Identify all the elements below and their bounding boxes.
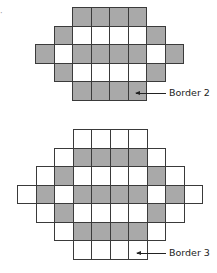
- unshaded-tile: [184, 185, 203, 204]
- shaded-tile: [36, 185, 55, 204]
- unshaded-tile: [110, 240, 129, 260]
- shaded-tile: [147, 166, 166, 186]
- shaded-tile: [110, 148, 129, 167]
- border-2-label: Border 2: [169, 87, 210, 98]
- unshaded-tile: [128, 166, 148, 186]
- shaded-tile: [73, 185, 92, 204]
- unshaded-tile: [128, 240, 148, 260]
- shaded-tile: [110, 222, 129, 241]
- shaded-tile: [35, 44, 55, 64]
- unshaded-tile: [165, 203, 185, 223]
- unshaded-tile: [165, 166, 185, 186]
- unshaded-tile: [147, 185, 166, 204]
- shaded-tile: [91, 222, 111, 241]
- shaded-tile: [109, 44, 129, 64]
- shaded-tile: [109, 81, 129, 101]
- shaded-tile: [110, 185, 129, 204]
- shaded-tile: [165, 44, 184, 64]
- unshaded-tile: [72, 26, 92, 45]
- unshaded-tile: [54, 222, 74, 241]
- shaded-tile: [128, 185, 148, 204]
- shaded-tile: [91, 148, 111, 167]
- unshaded-tile: [110, 129, 129, 149]
- unshaded-tile: [110, 166, 129, 186]
- unshaded-tile: [110, 203, 129, 223]
- unshaded-tile: [91, 240, 111, 260]
- unshaded-tile: [91, 166, 111, 186]
- unshaded-tile: [146, 44, 166, 64]
- shaded-tile: [73, 148, 92, 167]
- unshaded-tile: [91, 129, 111, 149]
- shaded-tile: [72, 7, 92, 27]
- shaded-tile: [128, 222, 148, 241]
- unshaded-tile: [128, 129, 148, 149]
- unshaded-tile: [91, 203, 111, 223]
- unshaded-tile: [147, 222, 166, 241]
- unshaded-tile: [91, 26, 110, 45]
- shaded-tile: [72, 44, 92, 64]
- unshaded-tile: [128, 63, 147, 82]
- shaded-tile: [54, 166, 74, 186]
- shaded-tile: [128, 44, 147, 64]
- border-3-arrow-icon: [137, 253, 166, 254]
- unshaded-tile: [73, 240, 92, 260]
- unshaded-tile: [36, 166, 55, 186]
- unshaded-tile: [109, 26, 129, 45]
- border-3-label: Border 3: [169, 247, 210, 258]
- unshaded-tile: [54, 148, 74, 167]
- unshaded-tile: [72, 63, 92, 82]
- unshaded-tile: [36, 203, 55, 223]
- shaded-tile: [147, 203, 166, 223]
- shaded-tile: [91, 7, 110, 27]
- shaded-tile: [128, 7, 147, 27]
- unshaded-tile: [17, 185, 37, 204]
- shaded-tile: [146, 26, 166, 45]
- shaded-tile: [72, 81, 92, 101]
- shaded-tile: [54, 63, 73, 82]
- unshaded-tile: [91, 63, 110, 82]
- shaded-tile: [146, 63, 166, 82]
- shaded-tile: [128, 148, 148, 167]
- unshaded-tile: [128, 26, 147, 45]
- unshaded-tile: [73, 203, 92, 223]
- unshaded-tile: [73, 129, 92, 149]
- shaded-tile: [165, 185, 185, 204]
- shaded-tile: [54, 26, 73, 45]
- unshaded-tile: [128, 203, 148, 223]
- border-2-arrow-icon: [136, 93, 166, 94]
- shaded-tile: [73, 222, 92, 241]
- unshaded-tile: [147, 148, 166, 167]
- unshaded-tile: [73, 166, 92, 186]
- shaded-tile: [91, 185, 111, 204]
- unshaded-tile: [54, 44, 73, 64]
- shaded-tile: [54, 203, 74, 223]
- unshaded-tile: [54, 185, 74, 204]
- shaded-tile: [109, 7, 129, 27]
- cropped-figure-marker: ·: [0, 9, 3, 18]
- shaded-tile: [91, 81, 110, 101]
- unshaded-tile: [109, 63, 129, 82]
- shaded-tile: [91, 44, 110, 64]
